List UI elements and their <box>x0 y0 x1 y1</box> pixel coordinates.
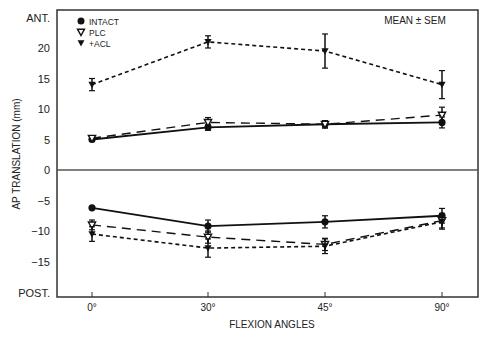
plot-frame <box>57 10 478 297</box>
filled-triangle-marker-icon <box>78 40 85 46</box>
y-tick-label: −10 <box>31 225 50 237</box>
x-tick-label: 0° <box>87 302 97 313</box>
x-tick-label: 30° <box>200 302 215 313</box>
open-triangle-marker-icon <box>321 121 328 127</box>
y-axis: ANT.20151050−5−10−15POST. <box>18 12 50 299</box>
x-tick-label: 45° <box>317 302 332 313</box>
series-line <box>92 42 442 85</box>
series-plc <box>88 107 445 142</box>
y-tick-label: ANT. <box>26 12 50 24</box>
series-line <box>92 222 442 248</box>
circle-marker-icon <box>321 218 328 225</box>
open-triangle-marker-icon <box>438 112 445 118</box>
legend-label: PLC <box>89 28 106 38</box>
series-intact <box>88 117 445 143</box>
y-tick-label: 0 <box>44 164 50 176</box>
filled-triangle-marker-icon <box>88 82 95 88</box>
x-axis-label: FLEXION ANGLES <box>229 319 315 330</box>
y-axis-label: AP TRANSLATION (mm) <box>11 98 22 209</box>
chart: ANT.20151050−5−10−15POST. 0°30°45°90° AP… <box>0 0 484 337</box>
mean-sem-annotation: MEAN ± SEM <box>384 15 446 26</box>
x-axis: 0°30°45°90° <box>87 292 449 313</box>
x-tick-label: 90° <box>434 302 449 313</box>
panel-posterior <box>88 204 445 257</box>
legend-label: +ACL <box>89 39 111 49</box>
legend-label: INTACT <box>89 17 119 27</box>
series-line <box>92 208 442 226</box>
y-tick-label: −5 <box>37 195 50 207</box>
series-plus-acl <box>88 215 445 258</box>
legend-item: +ACL <box>78 39 111 49</box>
circle-marker-icon <box>204 223 211 230</box>
legend: INTACTPLC+ACL <box>78 17 120 49</box>
open-triangle-marker-icon <box>78 29 85 35</box>
y-tick-label: 10 <box>38 103 50 115</box>
series-plus-acl <box>88 34 445 99</box>
panel-anterior <box>88 34 445 143</box>
filled-triangle-marker-icon <box>438 82 445 88</box>
y-tick-label: POST. <box>18 287 50 299</box>
series-layer <box>88 34 445 257</box>
circle-marker-icon <box>88 204 95 211</box>
legend-item: PLC <box>78 28 106 38</box>
circle-marker-icon <box>78 18 85 25</box>
legend-item: INTACT <box>78 17 120 27</box>
y-tick-label: 15 <box>38 73 50 85</box>
series-intact <box>88 204 445 232</box>
y-tick-label: 5 <box>44 134 50 146</box>
y-tick-label: −15 <box>31 256 50 268</box>
y-tick-label: 20 <box>38 42 50 54</box>
